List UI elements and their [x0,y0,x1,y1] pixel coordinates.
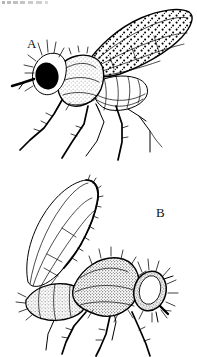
figure-b-fly-drawing [0,0,197,357]
figure-b-head [130,259,178,322]
figure-b-label: B [156,206,165,219]
illustration-plate: A [0,0,197,357]
